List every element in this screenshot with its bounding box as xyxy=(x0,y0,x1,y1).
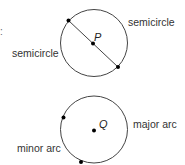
semicircle-label-right: semicircle xyxy=(128,17,175,28)
center-point-q xyxy=(92,129,96,133)
point-label-q: Q xyxy=(99,119,108,130)
minor-arc-label: minor arc xyxy=(17,143,61,154)
diameter-endpoint-top xyxy=(67,19,71,23)
diameter-endpoint-bottom xyxy=(116,65,120,69)
semicircle-label-left: semicircle xyxy=(12,48,59,59)
major-arc-label: major arc xyxy=(133,119,177,130)
cropped-text-fragment: : xyxy=(0,27,3,37)
arc-endpoint-left xyxy=(62,116,66,120)
arc-endpoint-bottom xyxy=(79,160,83,164)
point-label-p: P xyxy=(94,32,101,43)
